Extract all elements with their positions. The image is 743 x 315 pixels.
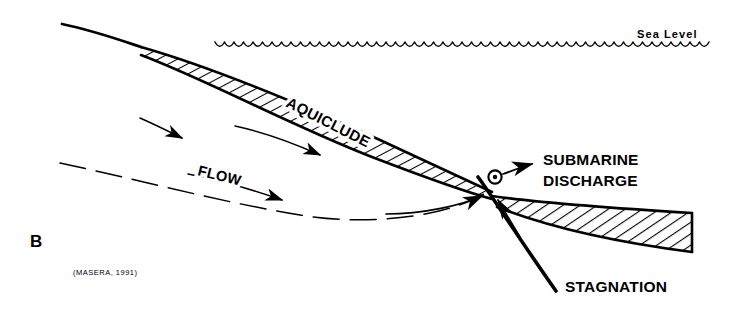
submarine-discharge-label-line1: SUBMARINE	[543, 151, 639, 168]
figure-panel-b: Sea Level FLOW	[0, 0, 743, 315]
sea-level-label: Sea Level	[637, 28, 698, 40]
panel-label: B	[30, 232, 42, 251]
submarine-discharge-label-line2: DISCHARGE	[543, 172, 638, 189]
stagnation-label: STAGNATION	[565, 278, 667, 295]
citation-label: (MASERA, 1991)	[73, 268, 138, 277]
discharge-point-symbol	[488, 170, 501, 183]
cross-section-diagram: Sea Level FLOW	[0, 0, 743, 315]
